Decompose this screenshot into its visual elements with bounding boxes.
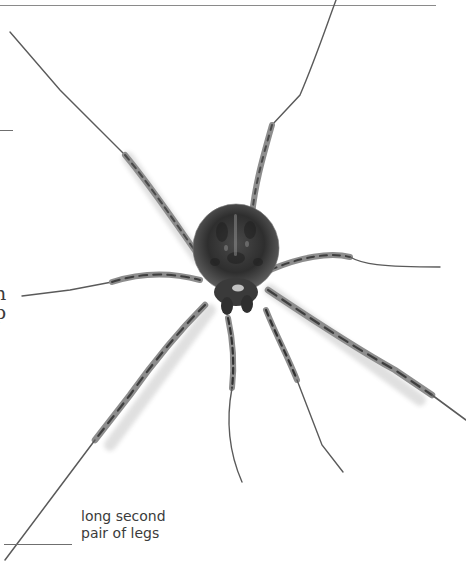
leg-annotation-label: long second pair of legs xyxy=(81,508,166,542)
annotation-line-2: pair of legs xyxy=(81,525,166,542)
leg-second-pair-right xyxy=(268,290,466,420)
leg-rear-left xyxy=(228,318,242,482)
annotation-leader-line xyxy=(4,544,72,545)
textbook-page: n p xyxy=(0,0,466,588)
leg-middle-left xyxy=(22,275,200,296)
leg-middle-right xyxy=(270,255,440,270)
harvestman-body xyxy=(193,204,279,315)
leg-front-right xyxy=(252,0,336,215)
annotation-line-1: long second xyxy=(81,508,166,525)
harvestman-illustration xyxy=(0,0,466,588)
